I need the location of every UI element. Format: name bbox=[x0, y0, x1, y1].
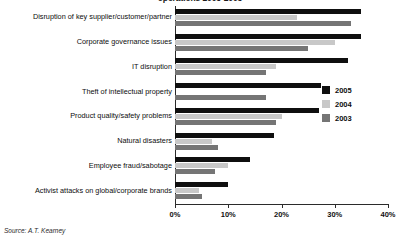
bar-2003 bbox=[175, 169, 215, 174]
category-label: IT disruption bbox=[132, 62, 172, 71]
bar-2004 bbox=[175, 40, 335, 45]
legend-item-2005: 2005 bbox=[322, 83, 382, 97]
chart-title-clipped: operations 2003-2005 bbox=[0, 0, 400, 3]
bar-2005 bbox=[175, 83, 321, 88]
bar-2005 bbox=[175, 182, 228, 187]
x-axis-tick-label: 30% bbox=[327, 210, 342, 219]
category-label: Product quality/safety problems bbox=[70, 111, 172, 120]
category-label: Natural disasters bbox=[117, 136, 172, 145]
category-label: Disruption of key supplier/customer/part… bbox=[33, 12, 172, 21]
bar-2005 bbox=[175, 133, 274, 138]
bar-2003 bbox=[175, 70, 266, 75]
x-axis-tick-label: 0% bbox=[170, 210, 181, 219]
bar-2004 bbox=[175, 188, 199, 193]
x-axis-tick-label: 20% bbox=[274, 210, 289, 219]
legend-swatch-2004 bbox=[322, 100, 330, 108]
legend-item-2004: 2004 bbox=[322, 97, 382, 111]
bar-2005 bbox=[175, 157, 250, 162]
x-axis-tick bbox=[388, 204, 389, 208]
bar-2003 bbox=[175, 145, 218, 150]
category-label: Corporate governance issues bbox=[77, 37, 172, 46]
category-label: Theft of intellectual property bbox=[82, 87, 172, 96]
legend-swatch-2005 bbox=[322, 86, 330, 94]
bar-2003 bbox=[175, 95, 266, 100]
x-axis-tick-label: 10% bbox=[221, 210, 236, 219]
bar-2004 bbox=[175, 64, 276, 69]
legend-item-2003: 2003 bbox=[322, 111, 382, 125]
x-axis-tick bbox=[335, 204, 336, 208]
chart-legend: 2005 2004 2003 bbox=[322, 83, 382, 125]
bar-2004 bbox=[175, 15, 297, 20]
category-label: Activist attacks on global/corporate bra… bbox=[35, 186, 172, 195]
x-axis-tick-label: 40% bbox=[380, 210, 395, 219]
bar-2004 bbox=[175, 139, 212, 144]
legend-label-2005: 2005 bbox=[335, 86, 352, 95]
bar-2003 bbox=[175, 21, 351, 26]
category-label: Employee fraud/sabotage bbox=[89, 161, 172, 170]
bar-2005 bbox=[175, 34, 361, 39]
bar-2005 bbox=[175, 58, 348, 63]
bar-2003 bbox=[175, 194, 202, 199]
bar-chart: operations 2003-2005 Disruption of key s… bbox=[0, 0, 400, 240]
x-axis-tick bbox=[175, 204, 176, 208]
x-axis-tick bbox=[282, 204, 283, 208]
bar-2003 bbox=[175, 46, 308, 51]
source-note: Source: A.T. Kearney bbox=[4, 227, 65, 234]
bar-2004 bbox=[175, 163, 228, 168]
bar-2004 bbox=[175, 114, 282, 119]
chart-title: operations 2003-2005 bbox=[0, 0, 400, 3]
bar-2005 bbox=[175, 9, 361, 14]
x-axis-tick bbox=[228, 204, 229, 208]
bar-2003 bbox=[175, 120, 276, 125]
legend-swatch-2003 bbox=[322, 114, 330, 122]
legend-label-2003: 2003 bbox=[335, 114, 352, 123]
legend-label-2004: 2004 bbox=[335, 100, 352, 109]
bar-2005 bbox=[175, 108, 319, 113]
